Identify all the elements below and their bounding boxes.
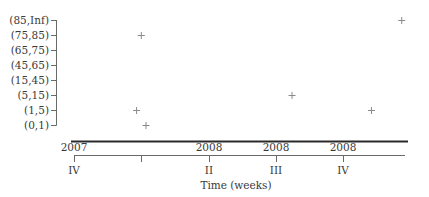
x-axis: 2007 2008 2008 2008 IV II III IV Time (w…	[61, 141, 405, 191]
y-tick-label: (85,Inf)	[9, 14, 49, 26]
y-axis: (85,Inf) (75,85) (65,75) (45,65) (15,45)…	[9, 14, 56, 131]
x-axis-title: Time (weeks)	[200, 179, 271, 191]
y-tick-label: (45,65)	[11, 59, 49, 71]
x-quarter-label: II	[205, 164, 213, 176]
x-year-label: 2008	[330, 141, 357, 153]
plus-marker-icon	[368, 107, 375, 114]
y-tick-label: (5,15)	[17, 89, 49, 101]
plus-marker-icon	[138, 32, 145, 39]
x-quarter-label: III	[270, 164, 282, 176]
x-year-label: 2007	[61, 141, 88, 153]
plus-marker-icon	[398, 17, 405, 24]
y-tick-label: (65,75)	[11, 44, 49, 56]
y-tick-label: (15,45)	[11, 74, 49, 86]
x-quarter-label: IV	[68, 164, 80, 176]
x-year-label: 2008	[263, 141, 290, 153]
plus-marker-icon	[289, 92, 296, 99]
y-tick-label: (75,85)	[11, 29, 49, 41]
data-points	[133, 17, 405, 129]
plus-marker-icon	[133, 107, 140, 114]
plus-marker-icon	[143, 122, 150, 129]
x-year-label: 2008	[196, 141, 223, 153]
y-tick-label: (0,1)	[24, 119, 49, 131]
scatter-chart: (85,Inf) (75,85) (65,75) (45,65) (15,45)…	[0, 0, 429, 197]
y-tick-label: (1,5)	[24, 104, 49, 116]
x-quarter-label: IV	[337, 164, 349, 176]
